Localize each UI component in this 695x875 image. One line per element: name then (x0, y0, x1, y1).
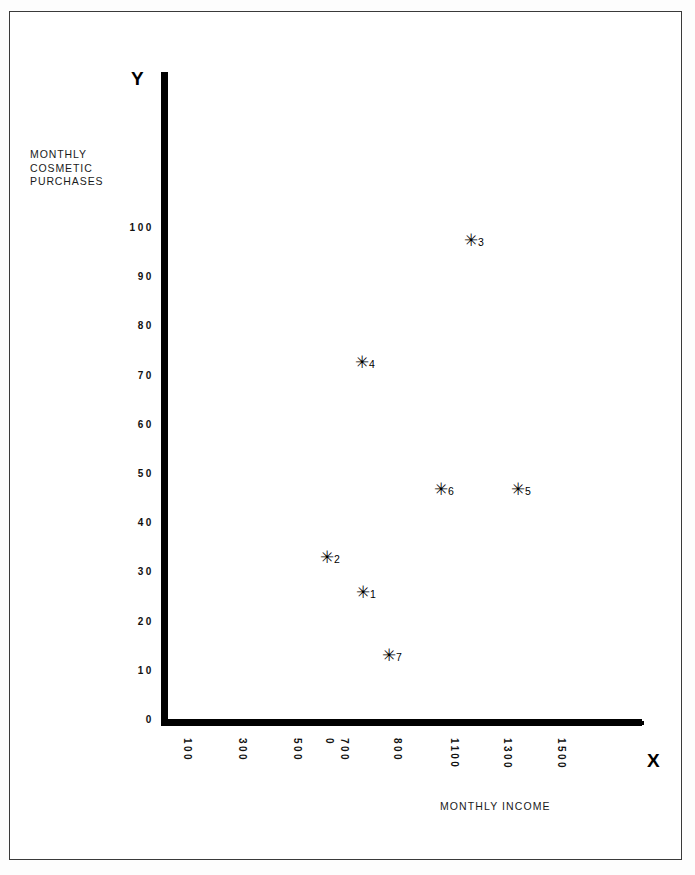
scatter-point-label: 7 (396, 651, 402, 663)
scatter-point-label: 4 (369, 358, 375, 370)
asterisk-marker-icon: ✳ (320, 549, 334, 566)
scatter-point-group: ✳1✳2✳3✳4✳5✳6✳7 (0, 0, 695, 875)
asterisk-marker-icon: ✳ (464, 232, 478, 249)
asterisk-marker-icon: ✳ (356, 584, 370, 601)
scatter-point-label: 2 (334, 553, 340, 565)
scatter-point-label: 1 (370, 588, 376, 600)
scatter-point-label: 3 (478, 236, 484, 248)
asterisk-marker-icon: ✳ (434, 481, 448, 498)
asterisk-marker-icon: ✳ (355, 354, 369, 371)
scatter-point-label: 6 (448, 485, 454, 497)
chart-page: Y X MONTHLY COSMETIC PURCHASES MONTHLY I… (0, 0, 695, 875)
asterisk-marker-icon: ✳ (511, 481, 525, 498)
asterisk-marker-icon: ✳ (382, 647, 396, 664)
scatter-point-label: 5 (525, 485, 531, 497)
